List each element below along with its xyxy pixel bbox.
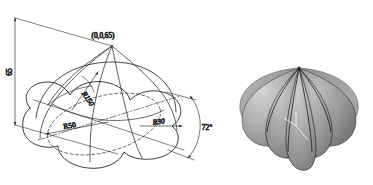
meridian-1 bbox=[40, 46, 112, 138]
apex-coordinate-label: (0,0,65) bbox=[92, 32, 115, 40]
outer-radius-dimension bbox=[46, 122, 108, 134]
dome-horizon-arc bbox=[36, 62, 176, 118]
figure-canvas: (0,0,65) 65 R150 R50 R30 72° bbox=[0, 0, 373, 185]
r50-leader-line bbox=[46, 122, 108, 134]
engineering-figure: (0,0,65) 65 R150 R50 R30 72° bbox=[0, 0, 373, 185]
render-apex-point bbox=[297, 66, 300, 69]
meridian-curves bbox=[40, 46, 177, 162]
drawing-group: (0,0,65) 65 R150 R50 R30 72° bbox=[5, 18, 212, 168]
seam-front bbox=[52, 104, 164, 121]
lobe-radius-label: R30 bbox=[151, 116, 165, 127]
height-label: 65 bbox=[5, 68, 14, 76]
dome-silhouette bbox=[36, 62, 176, 118]
render-group bbox=[240, 66, 358, 170]
lobe-angle-label: 72° bbox=[202, 123, 213, 132]
angle-arc bbox=[188, 96, 200, 158]
outer-radius-label: R50 bbox=[63, 120, 77, 131]
